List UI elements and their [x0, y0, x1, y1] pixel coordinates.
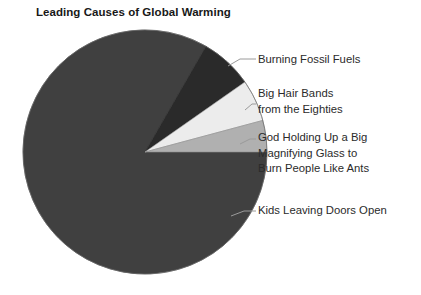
pie-label-line: Big Hair Bands	[258, 86, 343, 102]
pie-label-line: Kids Leaving Doors Open	[258, 203, 387, 219]
pie-chart-figure: Leading Causes of Global Warming Burning…	[0, 0, 421, 295]
pie-label-line: from the Eighties	[258, 102, 343, 118]
pie-label-line: Burning Fossil Fuels	[258, 52, 360, 68]
leader-line-burning-fossil-fuels	[228, 59, 256, 66]
pie-label-burning-fossil-fuels: Burning Fossil Fuels	[258, 52, 360, 68]
pie-label-god-holding-magnifying-glass: God Holding Up a Big Magnifying Glass to…	[258, 130, 369, 177]
pie-label-line: Burn People Like Ants	[258, 161, 369, 177]
pie-label-line: Magnifying Glass to	[258, 146, 369, 162]
pie-label-line: God Holding Up a Big	[258, 130, 369, 146]
pie-label-big-hair-bands: Big Hair Bands from the Eighties	[258, 86, 343, 117]
pie-label-kids-leaving-doors-open: Kids Leaving Doors Open	[258, 203, 387, 219]
